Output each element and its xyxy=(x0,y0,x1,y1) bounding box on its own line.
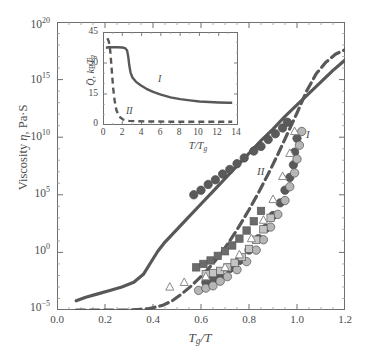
x-tick-label: 0.4 xyxy=(131,313,175,325)
y-tick-label: 1020 xyxy=(6,16,50,30)
main-curve-label-II: II xyxy=(257,165,264,177)
inset-x-tick-label: 4 xyxy=(132,127,150,137)
x-tick-label: 1.0 xyxy=(275,313,319,325)
inset-x-axis-title: T/Tg xyxy=(168,140,228,153)
inset-x-tick-label: 14 xyxy=(226,127,246,137)
x-tick-label: 0.6 xyxy=(179,313,223,325)
inset-x-tick-label: 8 xyxy=(170,127,188,137)
x-tick-label: 0.0 xyxy=(35,313,79,325)
inset-curve-label-II: II xyxy=(126,105,133,116)
y-tick-label: 100 xyxy=(6,242,50,256)
inset-x-tick-label: 6 xyxy=(151,127,169,137)
inset-x-tick-label: 2 xyxy=(113,127,131,137)
inset-y-tick-label: 0 xyxy=(62,118,98,128)
x-tick-label: 1.2 xyxy=(323,313,367,325)
y-axis-title: Viscosity η, Pa·S xyxy=(16,78,31,218)
x-tick-label: 0.8 xyxy=(227,313,271,325)
inset-curve-label-I: I xyxy=(158,73,161,84)
inset-x-tick-label: 12 xyxy=(207,127,227,137)
figure-viscosity-vs-tg-over-t: 1020 1015 1010 105 100 10−5 0.0 0.2 0.4 … xyxy=(0,0,367,356)
y-tick-label: 10−5 xyxy=(6,299,50,313)
inset-x-tick-label: 0 xyxy=(94,127,112,137)
x-axis-title: Tg/T xyxy=(140,330,260,346)
main-curve-label-I: I xyxy=(306,128,310,140)
x-tick-label: 0.2 xyxy=(83,313,127,325)
inset-plot-canvas xyxy=(103,32,238,125)
inset-x-tick-label: 10 xyxy=(188,127,208,137)
inset-y-axis-title: Q, kBTg xyxy=(85,25,98,115)
